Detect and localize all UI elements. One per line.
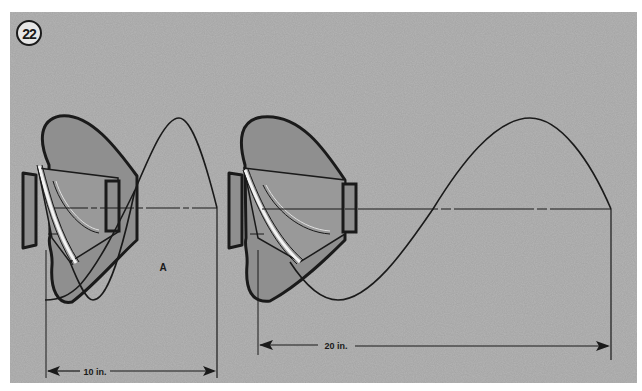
dimension-20in-label: 20 in. bbox=[324, 341, 347, 351]
dimension-10in-label: 10 in. bbox=[83, 367, 106, 377]
figure-number: 22 bbox=[22, 26, 37, 42]
figure-number-badge: 22 bbox=[17, 21, 41, 45]
label-a: A bbox=[159, 262, 166, 273]
propeller-pitch-diagram: 22 A 10 in. bbox=[0, 0, 642, 391]
